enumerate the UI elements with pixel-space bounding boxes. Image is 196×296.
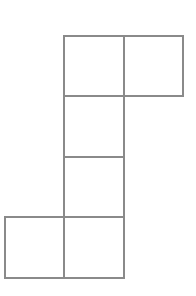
square-r0-c1	[63, 35, 125, 97]
square-r0-c2	[123, 35, 184, 97]
square-r1-c1	[63, 95, 125, 158]
square-r2-c1	[63, 156, 125, 219]
square-r3-c0	[4, 216, 65, 279]
square-r3-c1	[63, 216, 125, 279]
